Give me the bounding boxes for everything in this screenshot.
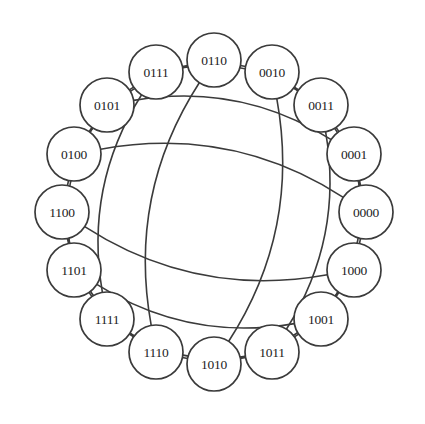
node-label: 1111 [95,312,119,327]
graph-node-1011[interactable]: 1011 [245,325,299,379]
graph-node-1111[interactable]: 1111 [80,292,134,346]
graph-edge [85,227,328,281]
node-label: 1001 [308,312,334,327]
graph-edge [145,83,199,326]
node-label: 1100 [49,205,75,220]
graph-node-0100[interactable]: 0100 [47,127,101,181]
graph-node-0101[interactable]: 0101 [80,78,134,132]
node-label: 0001 [341,147,367,162]
node-label: 1011 [259,345,284,360]
graph-node-0010[interactable]: 0010 [245,45,299,99]
graph-node-1100[interactable]: 1100 [35,185,89,239]
graph-edge [229,99,283,342]
graph-node-0000[interactable]: 0000 [339,185,393,239]
graph-node-1001[interactable]: 1001 [294,292,348,346]
node-label: 1110 [144,345,169,360]
node-label: 1101 [61,263,86,278]
node-label: 1010 [201,357,227,372]
graph-node-0110[interactable]: 0110 [187,33,241,87]
graph-node-1010[interactable]: 1010 [187,337,241,391]
hypercube-graph-figure: 0110001000110001000010001001101110101110… [0,0,425,424]
graph-node-1110[interactable]: 1110 [129,325,183,379]
graph-node-1000[interactable]: 1000 [327,243,381,297]
node-label: 0100 [61,147,87,162]
graph-node-0111[interactable]: 0111 [129,45,183,99]
node-layer: 0110001000110001000010001001101110101110… [35,33,393,391]
node-label: 1000 [341,263,367,278]
node-label: 0010 [259,65,285,80]
node-label: 0111 [144,65,169,80]
graph-canvas: 0110001000110001000010001001101110101110… [0,0,425,424]
node-label: 0110 [201,53,227,68]
node-label: 0011 [308,98,333,113]
node-label: 0101 [94,98,120,113]
graph-node-0011[interactable]: 0011 [294,78,348,132]
graph-node-0001[interactable]: 0001 [327,127,381,181]
node-label: 0000 [353,205,379,220]
graph-edge [101,143,344,197]
graph-node-1101[interactable]: 1101 [47,243,101,297]
